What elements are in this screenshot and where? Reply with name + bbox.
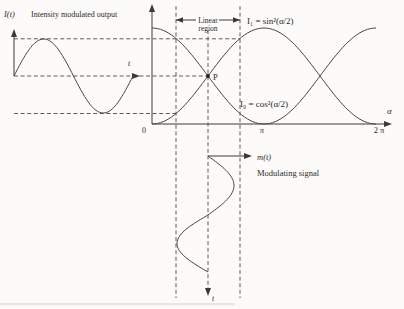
alpha-axis-arrowhead — [384, 121, 392, 127]
sin-squared-curve-label: I₁ = sin²(α/2) — [247, 16, 294, 26]
modulating-signal-label: m(t) — [257, 152, 271, 162]
intensity-axis-arrowhead — [149, 4, 155, 12]
figure-canvas: I(t) Intensity modulated output t Linear… — [0, 0, 404, 309]
tick-zero: 0 — [142, 126, 146, 135]
alpha-axis-label: α — [387, 106, 392, 116]
output-time-label: t — [128, 59, 131, 68]
bias-point-marker — [206, 74, 210, 78]
time-axis-arrowhead — [132, 73, 140, 79]
modulating-signal-waveform — [177, 156, 234, 272]
cos-squared-curve-label: I₀ = cos²(α/2) — [240, 99, 288, 109]
figure-page: I(t) Intensity modulated output t Linear… — [0, 0, 404, 309]
modulation-time-label: t — [212, 294, 215, 303]
output-axis-label: I(t) — [3, 9, 15, 19]
scan-shadow-artifact — [0, 303, 235, 305]
linear-region-arrowhead-left — [176, 17, 183, 22]
modulating-signal-caption: Modulating signal — [257, 168, 320, 178]
modulating-signal-axis-arrowhead — [244, 153, 252, 159]
modulation-time-axis-arrowhead — [205, 288, 211, 296]
tick-two-pi: 2 π — [374, 125, 385, 135]
tick-pi: π — [260, 125, 265, 135]
output-plot-title: Intensity modulated output — [31, 10, 118, 19]
output-intensity-axis-arrowhead — [11, 29, 17, 37]
linear-region-arrowhead-right — [233, 17, 240, 22]
linear-region-label-line2: region — [198, 24, 217, 33]
bias-point-label: P — [213, 72, 218, 82]
